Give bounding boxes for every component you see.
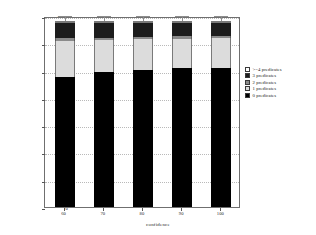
bar-stack — [133, 21, 153, 207]
legend-item: 2 predicates — [245, 79, 315, 85]
legend-swatch-icon — [245, 67, 250, 72]
bar-stack — [172, 21, 192, 207]
x-tick-label: 70 — [90, 211, 116, 216]
y-tick-mark — [42, 127, 45, 128]
y-tick-mark — [42, 45, 45, 46]
legend-label: 1 predicates — [253, 86, 277, 91]
bar-segment — [172, 39, 192, 68]
bar-segment — [211, 23, 231, 36]
legend-item: 0 predicates — [245, 92, 315, 98]
x-tick-label: 100 — [207, 211, 233, 216]
bar-stack — [94, 21, 114, 207]
x-tick-mark — [64, 208, 65, 211]
legend-item: 3 predicates — [245, 73, 315, 79]
y-tick-mark — [42, 100, 45, 101]
plot-area — [44, 17, 240, 208]
bar-segment — [133, 37, 153, 39]
legend-item: 1 predicates — [245, 86, 315, 92]
legend-label: >=4 predicates — [253, 67, 282, 72]
bar-cap-stem — [143, 16, 144, 21]
y-tick-mark — [42, 182, 45, 183]
legend-swatch-icon — [245, 80, 250, 85]
bar-cap-stem — [104, 16, 105, 21]
bar-segment — [94, 72, 114, 207]
x-tick-mark — [103, 208, 104, 211]
bar-segment — [172, 23, 192, 37]
bar-stack — [211, 21, 231, 207]
bar-segment — [133, 23, 153, 37]
y-tick-mark — [42, 18, 45, 19]
y-tick-mark — [42, 209, 45, 210]
bar-cap-stem — [65, 16, 66, 21]
bar-segment — [211, 36, 231, 38]
bar-segment — [94, 40, 114, 72]
x-tick-label: 80 — [129, 211, 155, 216]
bar-segment — [55, 41, 75, 78]
bar-segment — [133, 39, 153, 70]
legend: >=4 predicates3 predicates2 predicates1 … — [245, 66, 315, 99]
bar-segment — [55, 77, 75, 207]
y-tick-mark — [42, 73, 45, 74]
legend-item: >=4 predicates — [245, 66, 315, 72]
bar-segment — [172, 36, 192, 38]
bar-cap-stem — [182, 16, 183, 21]
legend-label: 3 predicates — [253, 73, 277, 78]
legend-swatch-icon — [245, 73, 250, 78]
bar-segment — [55, 23, 75, 38]
x-tick-label: 60 — [51, 211, 77, 216]
bar-segment — [133, 70, 153, 207]
x-tick-mark — [142, 208, 143, 211]
bar-cap-stem — [221, 16, 222, 21]
legend-label: 2 predicates — [253, 80, 277, 85]
x-tick-mark — [181, 208, 182, 211]
bar-segment — [172, 68, 192, 207]
legend-label: 0 predicates — [253, 93, 277, 98]
bar-segment — [211, 68, 231, 207]
legend-swatch-icon — [245, 86, 250, 91]
bar-stack — [55, 21, 75, 207]
gridline — [45, 18, 239, 19]
bar-segment — [94, 38, 114, 40]
x-axis-label: confidence — [0, 222, 316, 227]
x-tick-label: 90 — [168, 211, 194, 216]
chart-figure: Number of functions 02004006008001,0001,… — [0, 0, 316, 235]
bar-segment — [94, 23, 114, 38]
x-tick-mark — [220, 208, 221, 211]
legend-swatch-icon — [245, 93, 250, 98]
bar-segment — [55, 38, 75, 40]
bar-segment — [211, 38, 231, 68]
y-tick-mark — [42, 154, 45, 155]
